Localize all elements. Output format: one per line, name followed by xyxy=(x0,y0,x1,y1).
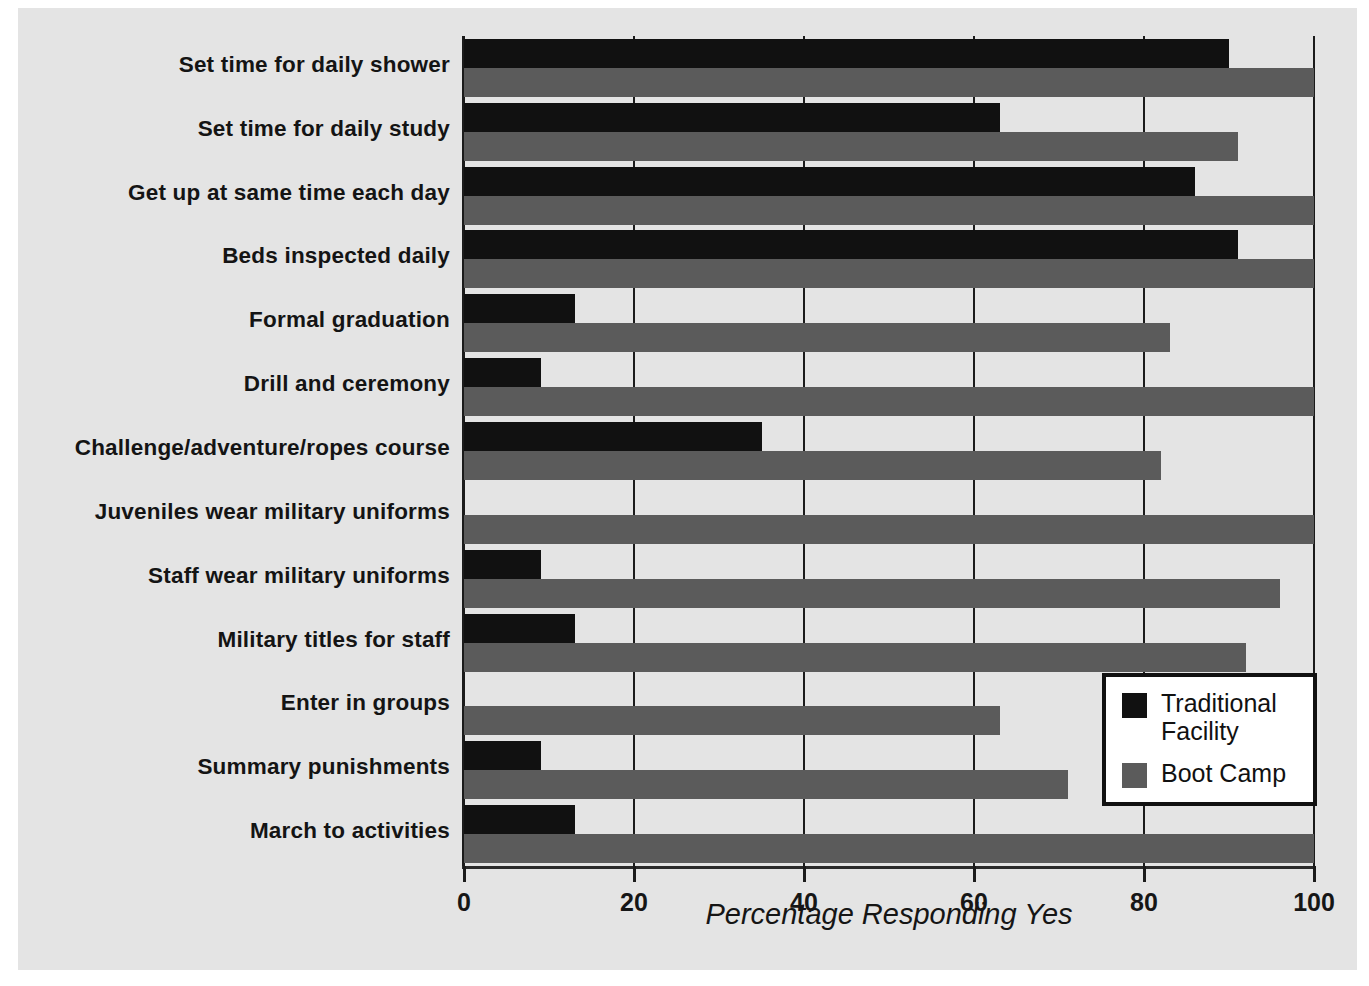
category-label: Drill and ceremony xyxy=(244,371,450,397)
category-label: Formal graduation xyxy=(249,307,450,333)
bar-fill xyxy=(464,196,1314,225)
category-label: March to activities xyxy=(250,818,450,844)
bar-traditional-facility xyxy=(464,614,575,643)
x-tick-80 xyxy=(1143,866,1146,882)
bar-fill xyxy=(464,515,1314,544)
legend-swatch-traditional-facility xyxy=(1122,693,1147,718)
bar-boot-camp xyxy=(464,323,1170,352)
category-label: Set time for daily shower xyxy=(179,52,450,78)
x-tick-0 xyxy=(463,866,466,882)
bar-fill xyxy=(464,422,762,451)
category-label: Staff wear military uniforms xyxy=(148,563,450,589)
bar-traditional-facility xyxy=(464,39,1229,68)
bar-boot-camp xyxy=(464,515,1314,544)
legend-label-boot-camp: Boot Camp xyxy=(1161,759,1286,787)
x-tick-100 xyxy=(1313,866,1316,882)
bar-traditional-facility xyxy=(464,422,762,451)
bar-fill xyxy=(464,741,541,770)
category-label: Enter in groups xyxy=(281,690,450,716)
bar-traditional-facility xyxy=(464,550,541,579)
bar-row: Staff wear military uniforms xyxy=(464,547,1314,611)
bar-boot-camp xyxy=(464,706,1000,735)
legend-swatch-boot-camp xyxy=(1122,763,1147,788)
category-label: Challenge/adventure/ropes course xyxy=(75,435,450,461)
bar-row: Drill and ceremony xyxy=(464,355,1314,419)
category-label: Beds inspected daily xyxy=(222,243,450,269)
bar-fill xyxy=(464,358,541,387)
bar-row: Set time for daily shower xyxy=(464,36,1314,100)
bar-fill xyxy=(464,323,1170,352)
legend-label-traditional-facility: Traditional Facility xyxy=(1161,689,1277,745)
x-axis xyxy=(462,866,1316,869)
category-label: Get up at same time each day xyxy=(128,180,450,206)
x-tick-20 xyxy=(633,866,636,882)
bar-fill xyxy=(464,805,575,834)
bar-traditional-facility xyxy=(464,805,575,834)
bar-boot-camp xyxy=(464,387,1314,416)
bar-boot-camp xyxy=(464,834,1314,863)
bar-row: Set time for daily study xyxy=(464,100,1314,164)
bar-row: Military titles for staff xyxy=(464,611,1314,675)
bar-row: Juveniles wear military uniforms xyxy=(464,483,1314,547)
bar-traditional-facility xyxy=(464,294,575,323)
bar-boot-camp xyxy=(464,643,1246,672)
bar-row: Beds inspected daily xyxy=(464,228,1314,292)
x-tick-60 xyxy=(973,866,976,882)
bar-boot-camp xyxy=(464,451,1161,480)
bar-fill xyxy=(464,259,1314,288)
bar-fill xyxy=(464,706,1000,735)
bar-boot-camp xyxy=(464,579,1280,608)
bar-boot-camp xyxy=(464,196,1314,225)
bar-fill xyxy=(464,579,1280,608)
bar-traditional-facility xyxy=(464,167,1195,196)
category-label: Military titles for staff xyxy=(217,627,450,653)
bar-boot-camp xyxy=(464,770,1068,799)
bar-fill xyxy=(464,770,1068,799)
bar-fill xyxy=(464,39,1229,68)
legend-item-traditional-facility: Traditional Facility xyxy=(1122,689,1303,745)
bar-traditional-facility xyxy=(464,103,1000,132)
bar-boot-camp xyxy=(464,259,1314,288)
bar-fill xyxy=(464,614,575,643)
bar-fill xyxy=(464,167,1195,196)
x-axis-title: Percentage Responding Yes xyxy=(464,898,1314,931)
bar-row: March to activities xyxy=(464,802,1314,866)
bar-row: Challenge/adventure/ropes course xyxy=(464,419,1314,483)
bar-fill xyxy=(464,230,1238,259)
bar-traditional-facility xyxy=(464,741,541,770)
bar-traditional-facility xyxy=(464,230,1238,259)
category-label: Summary punishments xyxy=(197,754,450,780)
legend-item-boot-camp: Boot Camp xyxy=(1122,759,1303,788)
chart-legend: Traditional Facility Boot Camp xyxy=(1102,673,1317,806)
bar-row: Formal graduation xyxy=(464,291,1314,355)
bar-boot-camp xyxy=(464,68,1314,97)
category-label: Juveniles wear military uniforms xyxy=(95,499,450,525)
bar-fill xyxy=(464,451,1161,480)
bar-row: Get up at same time each day xyxy=(464,164,1314,228)
x-tick-40 xyxy=(803,866,806,882)
category-label: Set time for daily study xyxy=(198,116,450,142)
chart-page: 020406080100 Set time for daily showerSe… xyxy=(0,0,1369,986)
bar-boot-camp xyxy=(464,132,1238,161)
bar-fill xyxy=(464,132,1238,161)
bar-fill xyxy=(464,834,1314,863)
bar-fill xyxy=(464,387,1314,416)
bar-fill xyxy=(464,550,541,579)
bar-fill xyxy=(464,103,1000,132)
bar-fill xyxy=(464,294,575,323)
bar-traditional-facility xyxy=(464,358,541,387)
bar-fill xyxy=(464,643,1246,672)
bar-fill xyxy=(464,68,1314,97)
